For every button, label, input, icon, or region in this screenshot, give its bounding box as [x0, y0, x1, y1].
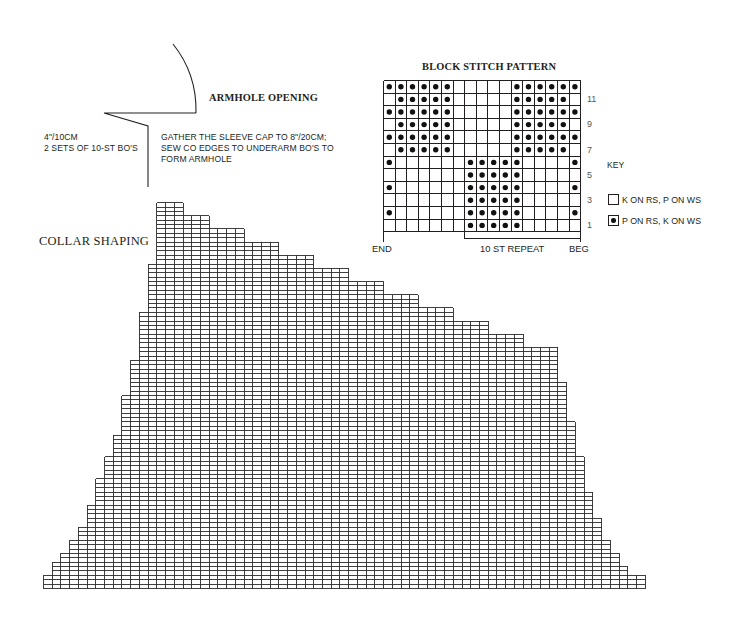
purl-dot: [514, 147, 519, 152]
purl-dot: [561, 97, 566, 102]
purl-dot: [572, 109, 577, 114]
purl-dot: [445, 122, 450, 127]
purl-dot: [421, 97, 426, 102]
purl-dot: [433, 122, 438, 127]
purl-dot: [526, 109, 531, 114]
purl-dot: [561, 84, 566, 89]
purl-dot: [549, 135, 554, 140]
purl-dot: [514, 185, 519, 190]
purl-dot: [491, 198, 496, 203]
purl-dot: [514, 210, 519, 215]
purl-dot: [514, 122, 519, 127]
purl-dot: [503, 160, 508, 165]
purl-dot: [421, 84, 426, 89]
purl-dot: [479, 223, 484, 228]
purl-dot: [410, 135, 415, 140]
purl-dot: [445, 97, 450, 102]
purl-dot: [468, 198, 473, 203]
empty-square-icon: [608, 194, 619, 205]
purl-dot: [549, 109, 554, 114]
purl-dot: [561, 147, 566, 152]
purl-dot: [514, 135, 519, 140]
purl-dot: [410, 97, 415, 102]
purl-dot: [561, 122, 566, 127]
purl-dot: [479, 210, 484, 215]
purl-dot: [410, 147, 415, 152]
purl-dot: [398, 97, 403, 102]
end-label: END: [372, 243, 392, 254]
purl-dot: [410, 122, 415, 127]
purl-dot: [433, 147, 438, 152]
purl-dot: [445, 135, 450, 140]
purl-dot: [468, 223, 473, 228]
purl-dot: [537, 109, 542, 114]
purl-dot: [479, 185, 484, 190]
purl-dot: [433, 135, 438, 140]
purl-dot: [537, 122, 542, 127]
purl-dot: [549, 84, 554, 89]
dot-square-icon: [608, 215, 619, 226]
purl-dot: [572, 210, 577, 215]
purl-dot: [387, 84, 392, 89]
purl-dot: [491, 160, 496, 165]
purl-dot: [387, 185, 392, 190]
purl-dot: [468, 185, 473, 190]
purl-dot: [514, 84, 519, 89]
purl-dot: [514, 109, 519, 114]
purl-dot: [387, 109, 392, 114]
row-number: 7: [587, 145, 592, 155]
purl-dot: [398, 122, 403, 127]
row-number: 1: [587, 220, 592, 230]
purl-dot: [537, 84, 542, 89]
purl-dot: [572, 84, 577, 89]
purl-dot: [491, 210, 496, 215]
row-number: 5: [587, 170, 592, 180]
purl-dot: [421, 147, 426, 152]
purl-dot: [526, 147, 531, 152]
purl-dot: [503, 185, 508, 190]
purl-dot: [445, 109, 450, 114]
purl-dot: [468, 160, 473, 165]
row-number: 11: [587, 94, 596, 104]
key-title: KEY: [607, 160, 624, 170]
purl-dot: [526, 97, 531, 102]
purl-dot: [503, 198, 508, 203]
purl-dot: [421, 122, 426, 127]
row-number: 3: [587, 195, 592, 205]
purl-dot: [491, 223, 496, 228]
purl-dot: [503, 210, 508, 215]
purl-dot: [491, 172, 496, 177]
purl-dot: [433, 109, 438, 114]
row-number: 9: [587, 119, 592, 129]
repeat-bracket: [465, 232, 581, 239]
purl-dot: [561, 109, 566, 114]
purl-dot: [537, 135, 542, 140]
purl-dot: [549, 97, 554, 102]
purl-dot: [537, 147, 542, 152]
key-item-label: P ON RS, K ON WS: [622, 216, 701, 226]
purl-dot: [468, 210, 473, 215]
purl-dot: [514, 97, 519, 102]
purl-dot: [503, 223, 508, 228]
purl-dot: [398, 84, 403, 89]
purl-dot: [387, 135, 392, 140]
purl-dot: [514, 198, 519, 203]
purl-dot: [572, 185, 577, 190]
purl-dot: [514, 160, 519, 165]
purl-dot: [398, 109, 403, 114]
purl-dot: [421, 109, 426, 114]
purl-dot: [549, 147, 554, 152]
purl-dot: [549, 122, 554, 127]
purl-dot: [479, 160, 484, 165]
purl-dot: [398, 147, 403, 152]
purl-dot: [526, 84, 531, 89]
purl-dot: [572, 160, 577, 165]
purl-dot: [445, 84, 450, 89]
purl-dot: [410, 84, 415, 89]
purl-dot: [526, 122, 531, 127]
purl-dot: [421, 135, 426, 140]
purl-dot: [410, 109, 415, 114]
purl-dot: [433, 97, 438, 102]
purl-dot: [445, 147, 450, 152]
purl-dot: [526, 135, 531, 140]
